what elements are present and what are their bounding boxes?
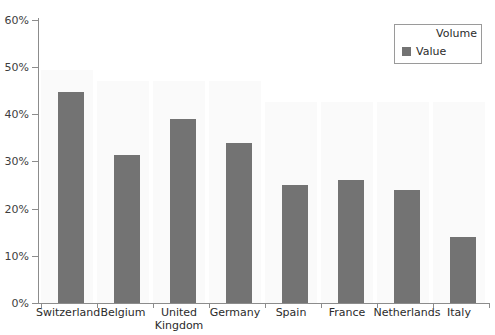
legend-swatch-icon bbox=[402, 47, 411, 56]
x-label-italy: Italy bbox=[428, 306, 490, 319]
y-tick-50 bbox=[32, 67, 38, 68]
y-tick-label-30: 30% bbox=[0, 156, 29, 167]
value-bar-italy bbox=[450, 237, 476, 303]
y-tick-label-50: 50% bbox=[0, 62, 29, 73]
y-tick-label-60: 60% bbox=[0, 15, 29, 26]
y-tick-40 bbox=[32, 114, 38, 115]
x-label-germany: Germany bbox=[204, 306, 266, 319]
y-tick-30 bbox=[32, 161, 38, 162]
value-bar-spain bbox=[282, 185, 308, 303]
legend: Volume Value bbox=[394, 24, 482, 64]
x-axis-line bbox=[38, 303, 490, 304]
x-label-switzerland: Switzerland bbox=[36, 306, 98, 319]
value-bar-belgium bbox=[114, 155, 140, 303]
value-bar-switzerland bbox=[58, 92, 84, 303]
legend-entry-label: Value bbox=[416, 46, 446, 57]
x-label-france: France bbox=[316, 306, 378, 319]
legend-title: Volume bbox=[395, 28, 477, 39]
y-tick-label-40: 40% bbox=[0, 109, 29, 120]
y-tick-10 bbox=[32, 256, 38, 257]
x-label-belgium: Belgium bbox=[92, 306, 154, 319]
y-tick-label-0: 0% bbox=[0, 298, 29, 309]
y-tick-0 bbox=[32, 303, 38, 304]
bar-chart: 60% 50% 40% 30% 20% 10% 0% Switzerland B… bbox=[0, 0, 495, 335]
y-tick-label-10: 10% bbox=[0, 251, 29, 262]
y-tick-60 bbox=[32, 20, 38, 21]
y-axis-line bbox=[38, 18, 39, 304]
legend-entry-value[interactable]: Value bbox=[402, 46, 446, 57]
x-label-spain: Spain bbox=[260, 306, 322, 319]
x-label-united-kingdom: United Kingdom bbox=[148, 306, 210, 332]
value-bar-united-kingdom bbox=[170, 119, 196, 303]
value-bar-netherlands bbox=[394, 190, 420, 303]
y-tick-20 bbox=[32, 209, 38, 210]
y-tick-label-20: 20% bbox=[0, 204, 29, 215]
value-bar-france bbox=[338, 180, 364, 303]
value-bar-germany bbox=[226, 143, 252, 303]
